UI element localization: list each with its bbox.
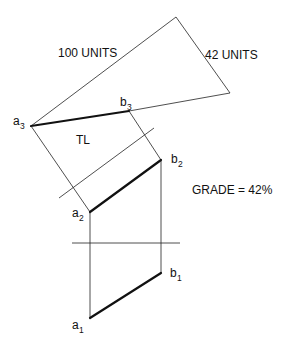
line-a1b1 xyxy=(90,273,161,318)
true-length-label: TL xyxy=(76,133,90,147)
point-label-b3: b 3 xyxy=(120,95,132,112)
point-label-a3: a 3 xyxy=(13,114,25,131)
svg-text:1: 1 xyxy=(177,273,182,283)
true-length-line-a3b3 xyxy=(31,111,129,126)
point-label-b2: b 2 xyxy=(171,152,183,169)
svg-text:3: 3 xyxy=(20,121,25,131)
point-label-a2: a 2 xyxy=(72,206,84,223)
svg-text:b: b xyxy=(170,266,177,280)
svg-text:a: a xyxy=(72,206,79,220)
svg-text:2: 2 xyxy=(178,159,183,169)
hypotenuse-line xyxy=(31,17,176,126)
base-extension-line xyxy=(129,93,230,111)
svg-text:2: 2 xyxy=(79,213,84,223)
svg-text:b: b xyxy=(120,95,127,109)
hypotenuse-label: 100 UNITS xyxy=(58,46,117,60)
point-label-a1: a 1 xyxy=(72,318,84,335)
point-label-b1: b 1 xyxy=(170,266,182,283)
diagram-canvas: 100 UNITS 42 UNITS TL GRADE = 42% a 3 b … xyxy=(0,0,281,344)
svg-text:a: a xyxy=(72,318,79,332)
rise-label: 42 UNITS xyxy=(205,48,258,62)
grade-label: GRADE = 42% xyxy=(192,183,273,197)
projector-b2-b3 xyxy=(129,111,161,160)
svg-text:a: a xyxy=(13,114,20,128)
fold-line-2-3 xyxy=(59,128,154,198)
svg-text:b: b xyxy=(171,152,178,166)
svg-text:3: 3 xyxy=(127,102,132,112)
svg-text:1: 1 xyxy=(79,325,84,335)
